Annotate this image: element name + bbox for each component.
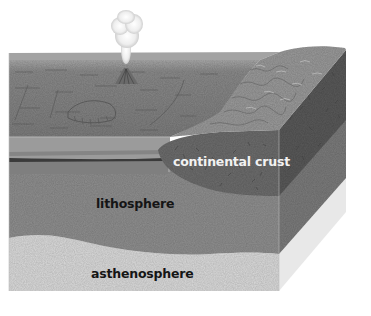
label-asthenosphere: asthenosphere bbox=[91, 266, 194, 281]
oceanic-crust-layer bbox=[9, 137, 170, 174]
label-continental-crust: continental crust bbox=[173, 154, 290, 169]
label-lithosphere: lithosphere bbox=[96, 196, 174, 211]
